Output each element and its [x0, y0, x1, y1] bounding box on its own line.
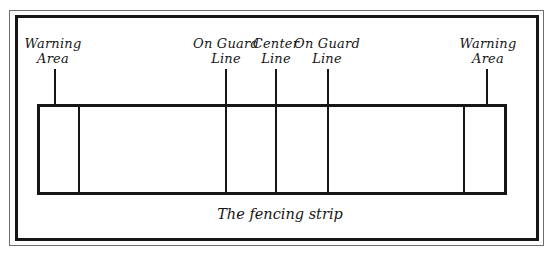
label-text: Warning: [446, 36, 530, 51]
fencing-strip-diagram: { "diagram": { "caption": "The fencing s…: [0, 0, 550, 259]
label-text: Line: [285, 51, 369, 66]
caption: The fencing strip: [10, 206, 550, 222]
label-text: Area: [11, 51, 95, 66]
label-on-guard-line-right: On Guard Line: [285, 36, 369, 66]
center-line: [275, 107, 277, 192]
label-warning-area-right: Warning Area: [446, 36, 530, 66]
leader-on-guard-line-right: [327, 69, 329, 105]
label-text: On Guard: [285, 36, 369, 51]
warning-line-left: [78, 107, 80, 192]
warning-line-right: [463, 107, 465, 192]
fencing-strip: [37, 104, 507, 195]
on-guard-line-left: [225, 107, 227, 192]
leader-warning-area-right: [486, 69, 488, 105]
label-text: Warning: [11, 36, 95, 51]
on-guard-line-right: [327, 107, 329, 192]
label-warning-area-left: Warning Area: [11, 36, 95, 66]
leader-on-guard-line-left: [225, 69, 227, 105]
label-text: Area: [446, 51, 530, 66]
leader-center-line: [275, 69, 277, 105]
leader-warning-area-left: [54, 69, 56, 105]
